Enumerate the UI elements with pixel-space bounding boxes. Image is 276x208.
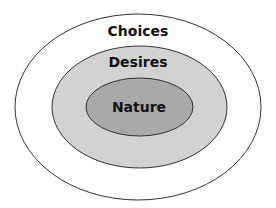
nested-ellipse-diagram: Choices Desires Nature [0, 0, 276, 208]
choices-label: Choices [108, 23, 169, 39]
nature-label: Nature [112, 99, 166, 115]
desires-label: Desires [109, 54, 168, 70]
